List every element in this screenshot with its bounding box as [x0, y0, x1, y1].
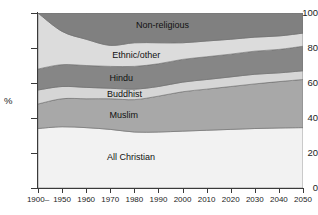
x-tick: [231, 189, 232, 193]
x-tick: [110, 189, 111, 193]
x-tick: [158, 189, 159, 193]
y-tick-label: 40: [292, 113, 318, 122]
x-tick-label: 1900–: [25, 195, 51, 204]
x-tick: [255, 189, 256, 193]
x-tick-label: 1960: [73, 195, 99, 204]
x-tick: [134, 189, 135, 193]
x-tick: [279, 189, 280, 193]
x-tick: [303, 189, 304, 193]
x-tick-label: 2040: [266, 195, 292, 204]
y-tick-label: 0: [292, 183, 318, 192]
x-tick: [183, 189, 184, 193]
x-tick-label: 2000: [170, 195, 196, 204]
y-tick: [31, 83, 37, 84]
y-tick-label: 20: [292, 148, 318, 157]
stacked-area-chart: % 100806040200 1900–19501960197019801990…: [0, 0, 318, 215]
y-tick: [31, 188, 37, 189]
x-tick-label: 1950: [49, 195, 75, 204]
y-tick: [31, 48, 37, 49]
x-tick-label: 2010: [194, 195, 220, 204]
band-label-ethnic-other: Ethnic/other: [112, 50, 160, 60]
x-tick-label: 1970: [97, 195, 123, 204]
plot-area: [38, 13, 303, 188]
x-tick-label: 2030: [242, 195, 268, 204]
x-tick-label: 1980: [121, 195, 147, 204]
band-label-buddhist: Buddhist: [107, 89, 142, 99]
x-tick-label: 1990: [145, 195, 171, 204]
band-label-non-religious: Non-religious: [136, 20, 189, 30]
y-tick: [31, 13, 37, 14]
band-label-muslim: Muslim: [110, 110, 139, 120]
x-tick-label: 2020: [218, 195, 244, 204]
y-tick: [31, 118, 37, 119]
y-tick-label: 60: [292, 78, 318, 87]
y-tick: [31, 153, 37, 154]
y-tick-label: 100: [292, 8, 318, 17]
x-axis-line: [37, 188, 304, 189]
y-axis-title: %: [4, 95, 12, 106]
x-tick: [62, 189, 63, 193]
band-label-hindu: Hindu: [110, 73, 134, 83]
plot-svg: [38, 13, 303, 188]
x-tick: [86, 189, 87, 193]
x-tick: [207, 189, 208, 193]
y-axis-line: [37, 12, 38, 189]
area-band-all-christian: [38, 127, 303, 188]
y-tick-label: 80: [292, 43, 318, 52]
band-label-all-christian: All Christian: [107, 152, 155, 162]
x-tick: [38, 189, 39, 193]
x-tick-label: 2050: [290, 195, 316, 204]
